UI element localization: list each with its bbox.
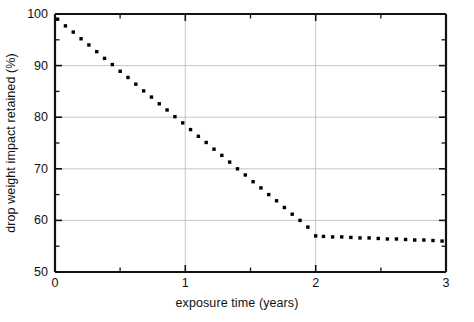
data-point xyxy=(386,237,389,240)
data-point xyxy=(181,121,184,124)
data-point xyxy=(349,236,352,239)
y-axis-title: drop weight impact retained (%) xyxy=(4,53,18,233)
x-axis-title: exposure time (years) xyxy=(0,296,474,310)
data-point xyxy=(298,219,301,222)
data-point xyxy=(291,213,294,216)
data-point xyxy=(95,50,98,53)
data-point xyxy=(236,167,239,170)
y-axis-title-container: drop weight impact retained (%) xyxy=(0,0,22,286)
data-point xyxy=(367,236,370,239)
plot-canvas xyxy=(0,0,474,322)
data-point xyxy=(283,206,286,209)
data-point xyxy=(165,108,168,111)
data-point xyxy=(126,76,129,79)
data-point xyxy=(79,37,82,40)
ytick-label-60: 60 xyxy=(18,213,48,227)
xtick-label-3: 3 xyxy=(431,276,461,290)
data-point xyxy=(87,43,90,46)
ytick-label-100: 100 xyxy=(18,7,48,21)
data-point xyxy=(331,235,334,238)
data-point xyxy=(111,63,114,66)
data-point xyxy=(204,141,207,144)
data-point xyxy=(64,24,67,27)
data-point xyxy=(134,82,137,85)
xtick-label-1: 1 xyxy=(170,276,200,290)
data-point xyxy=(103,57,106,60)
data-point xyxy=(306,225,309,228)
xtick-label-2: 2 xyxy=(301,276,331,290)
chart-figure: 100 90 80 70 60 50 0 1 2 3 exposure time… xyxy=(0,0,474,322)
data-point xyxy=(150,95,153,98)
data-point xyxy=(197,135,200,138)
data-point xyxy=(404,238,407,241)
xtick-label-0: 0 xyxy=(40,276,70,290)
data-point xyxy=(431,239,434,242)
data-point xyxy=(72,30,75,33)
data-point xyxy=(413,238,416,241)
data-point xyxy=(422,238,425,241)
ytick-label-70: 70 xyxy=(18,162,48,176)
data-point xyxy=(56,17,59,20)
data-point xyxy=(189,128,192,131)
data-point xyxy=(259,186,262,189)
data-point xyxy=(173,115,176,118)
data-point xyxy=(267,193,270,196)
ytick-label-90: 90 xyxy=(18,59,48,73)
data-point xyxy=(158,102,161,105)
data-point xyxy=(220,154,223,157)
data-point xyxy=(212,147,215,150)
data-point xyxy=(118,70,121,73)
data-point xyxy=(358,236,361,239)
data-point xyxy=(314,234,317,237)
data-point xyxy=(440,239,443,242)
data-point xyxy=(251,180,254,183)
plot-background xyxy=(55,14,446,272)
data-point xyxy=(275,199,278,202)
data-point xyxy=(228,160,231,163)
data-point xyxy=(395,237,398,240)
ytick-label-80: 80 xyxy=(18,110,48,124)
data-point xyxy=(244,173,247,176)
data-point xyxy=(322,235,325,238)
data-point xyxy=(377,237,380,240)
data-point xyxy=(340,235,343,238)
data-point xyxy=(142,89,145,92)
